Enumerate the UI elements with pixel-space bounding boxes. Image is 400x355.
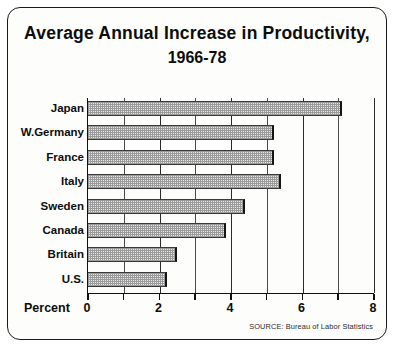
axis-tick-label-2: 2	[155, 301, 162, 315]
axis-tick-4	[230, 294, 232, 300]
bar-row	[88, 98, 374, 122]
bar-row	[88, 269, 374, 293]
category-label-france: France	[6, 151, 84, 163]
source-note: SOURCE: Bureau of Labor Statistics	[249, 322, 373, 331]
category-label-canada: Canada	[6, 224, 84, 236]
category-axis-labels: JapanW.GermanyFranceItalySwedenCanadaBri…	[8, 98, 84, 293]
axis-tick-label-8: 8	[370, 301, 377, 315]
bar-w-germany	[88, 125, 274, 140]
bar-canada	[88, 223, 226, 238]
bar-france	[88, 150, 274, 165]
chart-title-line-1: Average Annual Increase in Productivity,	[8, 22, 386, 44]
category-label-u-s: U.S.	[6, 273, 84, 285]
axis-tick-6	[302, 294, 304, 300]
chart-title: Average Annual Increase in Productivity,…	[8, 22, 386, 69]
bar-italy	[88, 174, 281, 189]
bar-u-s	[88, 272, 167, 287]
bar-row	[88, 147, 374, 171]
axis-tick-8	[373, 294, 375, 300]
category-label-italy: Italy	[6, 175, 84, 187]
axis-tick-2	[159, 294, 161, 300]
bar-row	[88, 122, 374, 146]
axis-tick-7	[337, 294, 339, 300]
bar-japan	[88, 101, 342, 116]
gridline-8	[374, 98, 375, 293]
axis-tick-label-0: 0	[84, 301, 91, 315]
category-label-sweden: Sweden	[6, 200, 84, 212]
chart-figure: Average Annual Increase in Productivity,…	[7, 7, 387, 340]
chart-title-line-2: 1966-78	[8, 47, 386, 69]
bar-britain	[88, 247, 177, 262]
axis-tick-5	[266, 294, 268, 300]
bar-row	[88, 244, 374, 268]
plot-area	[87, 98, 374, 294]
axis-tick-0	[87, 294, 89, 300]
bar-sweden	[88, 199, 245, 214]
axis-tick-label-6: 6	[298, 301, 305, 315]
x-axis-title: Percent	[24, 301, 70, 315]
category-label-w-germany: W.Germany	[6, 126, 84, 138]
axis-tick-label-4: 4	[227, 301, 234, 315]
axis-tick-3	[194, 294, 196, 300]
category-label-japan: Japan	[6, 102, 84, 114]
bar-row	[88, 196, 374, 220]
bar-row	[88, 171, 374, 195]
category-label-britain: Britain	[6, 248, 84, 260]
axis-tick-1	[123, 294, 125, 300]
value-axis: 02468	[87, 294, 375, 322]
bar-row	[88, 220, 374, 244]
